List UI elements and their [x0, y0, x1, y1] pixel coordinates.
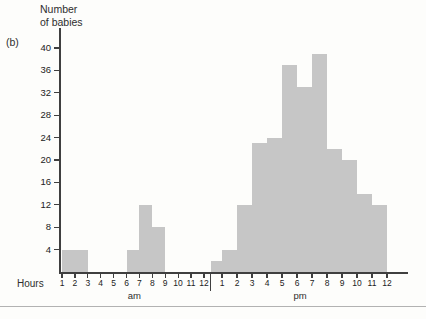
figure-label: (b) [6, 36, 19, 48]
y-axis-title-line1: Number [40, 3, 83, 16]
x-tick-label-pm: 8 [319, 279, 335, 288]
am-pm-separator [210, 272, 211, 291]
y-tick-label: 4 [29, 245, 51, 255]
y-tick-label: 32 [29, 88, 51, 98]
bar-6-7pm [297, 87, 312, 272]
x-tick-label-pm: 7 [304, 279, 320, 288]
x-tick-label-pm: 10 [349, 279, 365, 288]
y-tick-mark [54, 47, 60, 48]
x-tick-label-pm: 4 [259, 279, 275, 288]
y-axis-title-line2: of babies [40, 16, 83, 29]
x-tick-label-pm: 2 [229, 279, 245, 288]
bar-4-5pm [267, 138, 282, 272]
y-tick-mark [54, 204, 60, 205]
y-axis-line [59, 28, 61, 273]
bar-6-7am [127, 250, 140, 272]
y-tick-mark [54, 227, 60, 228]
x-tick-label-pm: 1 [214, 279, 230, 288]
y-tick-mark [54, 159, 60, 160]
x-tick-label-pm: 6 [289, 279, 305, 288]
am-label: am [122, 290, 146, 301]
y-tick-label: 28 [29, 110, 51, 120]
bar-2-3am [75, 250, 88, 272]
bar-7-8am [139, 205, 152, 272]
y-tick-mark [54, 182, 60, 183]
hours-label: Hours [17, 278, 44, 289]
bar-10-11pm [357, 194, 372, 272]
bar-5-6pm [282, 65, 297, 272]
y-tick-label: 8 [29, 222, 51, 232]
bar-2-3pm [237, 205, 252, 272]
y-tick-mark [54, 137, 60, 138]
frequency-diagram: Number of babies (b) 403632282420161284 … [0, 0, 426, 319]
y-tick-label: 16 [29, 177, 51, 187]
bar-8-9pm [327, 149, 342, 272]
y-tick-mark [54, 115, 60, 116]
bar-3-4pm [252, 143, 267, 272]
y-tick-mark [54, 70, 60, 71]
y-tick-label: 36 [29, 65, 51, 75]
bar-7-8pm [312, 54, 327, 272]
y-tick-mark [54, 249, 60, 250]
page-rule [0, 306, 426, 307]
bar-1-2pm [222, 250, 237, 272]
x-tick-label-pm: 3 [244, 279, 260, 288]
x-tick-label-pm: 11 [364, 279, 380, 288]
bar-11-12pm [372, 205, 387, 272]
pm-label: pm [288, 290, 312, 301]
y-tick-label: 20 [29, 155, 51, 165]
y-tick-mark [54, 92, 60, 93]
y-tick-label: 12 [29, 200, 51, 210]
bar-12-1pm [211, 261, 222, 272]
x-tick-label-pm: 5 [274, 279, 290, 288]
x-tick-label-pm: 12 [379, 279, 395, 288]
x-tick-label-pm: 9 [334, 279, 350, 288]
y-axis-title: Number of babies [40, 3, 83, 29]
bar-1-2am [62, 250, 75, 272]
bar-8-9am [152, 227, 165, 272]
y-tick-label: 40 [29, 43, 51, 53]
y-tick-label: 24 [29, 133, 51, 143]
bar-9-10pm [342, 160, 357, 272]
